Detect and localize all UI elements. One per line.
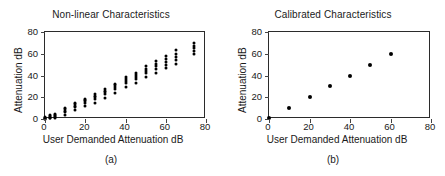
plot-area-a	[44, 31, 205, 118]
y-tick-60-a	[41, 54, 45, 55]
panel-caption-a: (a)	[0, 154, 222, 165]
data-point	[174, 63, 177, 66]
data-point	[164, 63, 167, 66]
data-point	[154, 72, 157, 75]
x-tick-label-0-b: 0	[256, 121, 280, 132]
data-point	[144, 76, 147, 79]
panel-caption-b: (b)	[222, 154, 444, 165]
data-point	[74, 109, 77, 112]
x-tick-label-80-a: 80	[193, 121, 217, 132]
data-point	[114, 82, 117, 85]
data-point	[389, 52, 393, 56]
y-tick-label-80-b: 80	[240, 26, 262, 37]
data-point	[134, 82, 137, 85]
data-point	[49, 117, 52, 120]
data-point	[134, 71, 137, 74]
y-tick-40-a	[41, 76, 45, 77]
data-point	[154, 59, 157, 62]
y-axis-title-b: Attenuation dB	[237, 47, 248, 113]
data-point	[192, 47, 195, 50]
x-tick-label-60-b: 60	[378, 121, 402, 132]
y-tick-40-b	[265, 76, 269, 77]
x-tick-label-20-b: 20	[297, 121, 321, 132]
y-tick-80-b	[265, 32, 269, 33]
plot-area-b	[268, 31, 430, 118]
data-point	[154, 62, 157, 65]
chart-title-b: Calibrated Characteristics	[222, 9, 444, 20]
data-point	[287, 106, 291, 110]
data-point	[124, 86, 127, 89]
data-point	[94, 92, 97, 95]
data-point	[192, 44, 195, 47]
data-point	[114, 91, 117, 94]
y-tick-60-b	[265, 54, 269, 55]
y-tick-80-a	[41, 32, 45, 33]
data-point	[64, 106, 67, 109]
data-point	[328, 84, 332, 88]
x-tick-label-20-a: 20	[72, 121, 96, 132]
data-point	[54, 116, 57, 119]
data-point	[368, 63, 372, 67]
y-tick-20-b	[265, 97, 269, 98]
data-point	[174, 52, 177, 55]
x-tick-label-80-b: 80	[418, 121, 442, 132]
data-point	[192, 50, 195, 53]
y-axis-title-a: Attenuation dB	[13, 47, 24, 113]
x-tick-label-60-a: 60	[153, 121, 177, 132]
data-point	[104, 96, 107, 99]
data-point	[164, 57, 167, 60]
data-point	[94, 101, 97, 104]
data-point	[84, 105, 87, 108]
data-point	[174, 49, 177, 52]
data-point	[164, 60, 167, 63]
panel-b: Calibrated Characteristics 0 20 40 60 80…	[222, 0, 444, 176]
x-tick-label-40-a: 40	[113, 121, 137, 132]
data-point	[164, 54, 167, 57]
y-tick-20-a	[41, 97, 45, 98]
data-point	[154, 65, 157, 68]
data-point	[164, 67, 167, 70]
data-point	[54, 112, 57, 115]
data-point	[64, 114, 67, 117]
data-point	[192, 41, 195, 44]
data-point	[348, 74, 352, 78]
x-tick-label-0-a: 0	[32, 121, 56, 132]
x-axis-title-a: User Demanded Attenuation dB	[10, 134, 216, 145]
x-axis-title-b: User Demanded Attenuation dB	[234, 134, 440, 145]
data-point	[308, 95, 312, 99]
y-tick-label-80-a: 80	[16, 26, 38, 37]
chart-title-a: Non-linear Characteristics	[0, 9, 222, 20]
data-point	[124, 75, 127, 78]
figure-two-scatter-panels: Non-linear Characteristics 0 20 40 60 80…	[0, 0, 445, 176]
panel-a: Non-linear Characteristics 0 20 40 60 80…	[0, 0, 222, 176]
data-point	[174, 59, 177, 62]
data-point	[84, 97, 87, 100]
data-point	[104, 87, 107, 90]
scatter-points-a	[45, 32, 204, 117]
data-point	[174, 56, 177, 59]
data-point	[74, 101, 77, 104]
data-point	[154, 67, 157, 70]
x-tick-label-40-b: 40	[337, 121, 361, 132]
data-point	[192, 52, 195, 55]
scatter-points-b	[269, 32, 429, 117]
data-point	[144, 65, 147, 68]
